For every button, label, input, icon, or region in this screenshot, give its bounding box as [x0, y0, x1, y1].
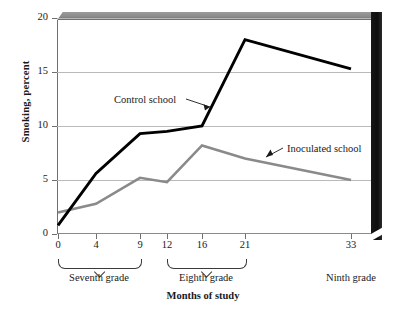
leader-line-inoculated — [266, 148, 283, 157]
series-lines — [0, 0, 406, 313]
control-school-line — [58, 40, 351, 226]
smoking-percent-line-chart: 20 15 10 5 0 Smoking, percent 0 4 9 12 1… — [0, 0, 406, 313]
leader-line-control — [186, 99, 210, 111]
inoculated-school-line — [58, 145, 351, 212]
